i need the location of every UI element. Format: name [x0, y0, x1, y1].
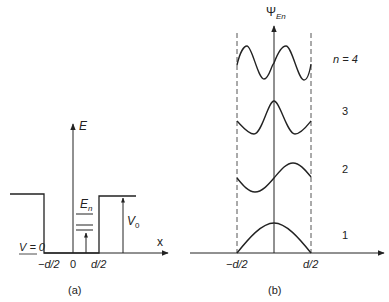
caption-b: (b) [268, 284, 281, 296]
state-label-n2: 2 [342, 163, 348, 175]
energy-level-label: En [80, 198, 92, 215]
tick-half-d-b: d/2 [303, 258, 318, 270]
caption-a: (a) [68, 284, 81, 296]
tick-zero-a: 0 [70, 258, 76, 270]
zero-potential-label: V = 0 [19, 241, 45, 253]
energy-axis-label: E [79, 120, 87, 132]
psi-axis-label: ΨEn [266, 6, 286, 23]
quantum-well-figure [0, 0, 389, 302]
panel-a-potential-well [10, 124, 168, 254]
tick-neg-half-d-b: −d/2 [226, 258, 248, 270]
state-label-n1: 1 [342, 229, 348, 241]
state-label-n4: n = 4 [333, 53, 358, 65]
state-label-n3: 3 [342, 105, 348, 117]
tick-half-d-a: d/2 [91, 258, 106, 270]
barrier-height-label: V0 [127, 215, 139, 232]
x-axis-label-a: x [157, 236, 163, 248]
tick-neg-half-d-a: −d/2 [38, 258, 60, 270]
